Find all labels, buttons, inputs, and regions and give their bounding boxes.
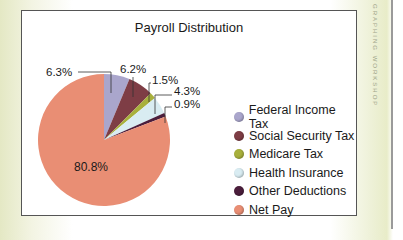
legend: Federal Income Tax Social Security Tax M… (234, 108, 356, 219)
legend-swatch (234, 205, 244, 215)
legend-label: Net Pay (249, 203, 293, 217)
legend-swatch (234, 168, 244, 178)
chart-container: Payroll Distribution 6.3% 6.2% 1.5% 4.3%… (21, 10, 357, 216)
right-margin (393, 0, 403, 229)
label-netpay: 80.8% (74, 160, 108, 174)
label-other: 0.9% (174, 98, 200, 110)
legend-label: Federal Income Tax (249, 103, 356, 131)
legend-label: Other Deductions (249, 184, 346, 198)
pie-slices (38, 74, 170, 206)
legend-swatch (234, 112, 244, 122)
legend-item: Federal Income Tax (234, 108, 356, 127)
legend-item: Net Pay (234, 201, 356, 220)
label-health: 4.3% (174, 85, 200, 97)
legend-swatch (234, 186, 244, 196)
legend-label: Social Security Tax (249, 129, 354, 143)
label-federal: 6.3% (46, 66, 72, 78)
legend-item: Other Deductions (234, 182, 356, 201)
legend-item: Social Security Tax (234, 127, 356, 146)
legend-swatch (234, 131, 244, 141)
legend-swatch (234, 149, 244, 159)
side-label: GRAPHING WORKSHOP (372, 4, 378, 107)
legend-item: Medicare Tax (234, 145, 356, 164)
legend-item: Health Insurance (234, 164, 356, 183)
legend-label: Health Insurance (249, 166, 344, 180)
legend-label: Medicare Tax (249, 147, 323, 161)
label-social: 6.2% (120, 63, 146, 75)
